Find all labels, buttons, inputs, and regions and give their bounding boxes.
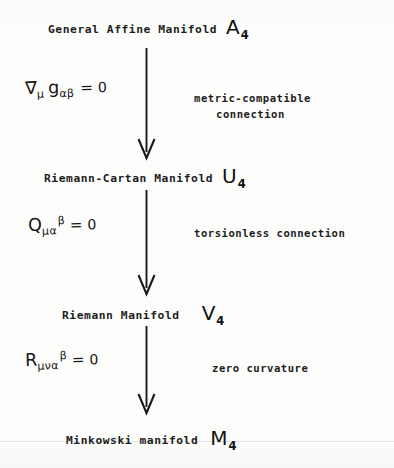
manifold-symbol-letter: M	[210, 426, 227, 450]
caption-zero-curvature: zero curvature	[212, 360, 308, 376]
equation-tensor-superscript: β	[60, 349, 67, 362]
arrow-riemann-to-minkowski	[0, 0, 394, 468]
node-label-minkowski-manifold: Minkowski manifold	[66, 434, 198, 447]
manifold-symbol-subscript: 4	[229, 439, 237, 453]
node-minkowski-manifold: Minkowski manifold M4	[66, 425, 236, 449]
equation-value: 0	[89, 351, 99, 367]
equation-relation: =	[72, 351, 85, 369]
equation-tensor: R	[25, 350, 38, 370]
caption-line-1: zero curvature	[212, 362, 308, 374]
diagram-canvas: General Affine Manifold A4 ∇μgαβ=0 metri…	[0, 0, 394, 468]
equation-curvature-vanishing: Rμναβ=0	[25, 348, 99, 370]
equation-tensor-subscript: μνα	[37, 359, 59, 373]
manifold-symbol-m4: M4	[210, 426, 235, 450]
